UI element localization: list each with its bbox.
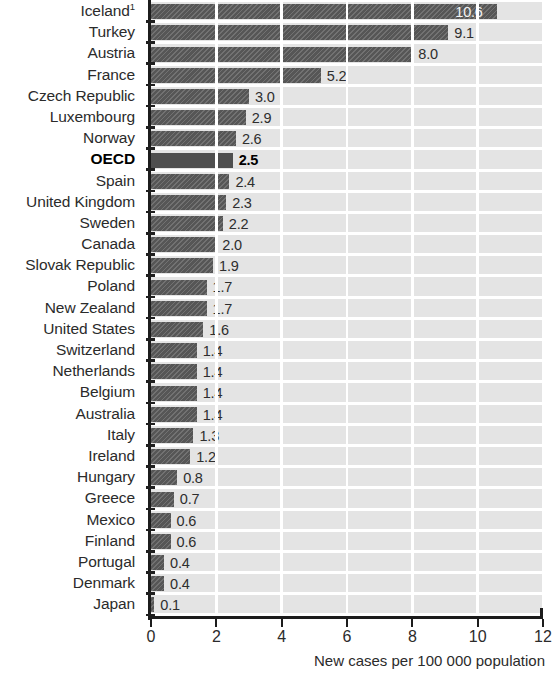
y-axis-tick [146,126,155,129]
category-label: Spain [0,170,143,191]
y-axis-tick [146,62,155,65]
y-axis-tick [146,274,155,277]
x-axis-tick [542,619,544,627]
category-label: Netherlands [0,360,143,381]
bar [151,237,216,252]
category-label: Portugal [0,551,143,572]
bar [151,470,177,485]
bar [151,492,174,507]
bar [151,258,213,273]
bar [151,301,207,316]
vertical-gridline [476,2,479,616]
category-label: Austria [0,42,143,63]
bar-value-label: 1.6 [209,321,229,339]
x-axis-tick-label: 8 [408,628,417,646]
y-axis-tick [146,465,155,468]
category-label: United Kingdom [0,191,143,212]
bar [151,513,171,528]
bar [151,576,164,591]
bar-value-label: 1.9 [219,257,239,275]
y-axis-line [148,0,151,620]
bar-value-label: 0.1 [160,596,180,614]
bar-value-label: 8.0 [418,45,438,63]
bar-value-label: 2.6 [242,130,262,148]
vertical-gridline [542,2,545,616]
y-axis-tick [146,571,155,574]
category-label: Czech Republic [0,85,143,106]
x-axis-tick [150,619,152,627]
footnote-marker: 1 [130,1,135,12]
x-axis-tick [411,619,413,627]
category-label: Poland [0,275,143,296]
x-axis-tick [215,619,217,627]
bar-value-label: 1.4 [203,384,223,402]
bar [151,280,207,295]
y-axis-tick [146,211,155,214]
x-axis-right-cap [540,608,543,619]
plot-area: 10.69.18.05.23.02.92.62.52.42.32.22.01.9… [151,2,543,616]
bar-value-label: 5.2 [327,67,347,85]
bar-value-label: 1.2 [196,448,216,466]
y-axis-tick [146,614,155,617]
x-axis-tick-label: 12 [534,628,552,646]
bar [151,25,448,40]
category-label: Italy [0,424,143,445]
bar-value-label: 1.4 [203,406,223,424]
vertical-gridline [411,2,414,616]
category-label: Turkey [0,21,143,42]
x-axis-tick [281,619,283,627]
bar [151,449,190,464]
bar [151,407,197,422]
vertical-gridline [346,2,349,616]
y-axis-tick [146,84,155,87]
category-label: Greece [0,487,143,508]
bar-value-label: 0.4 [170,575,190,593]
bar-value-label: 0.6 [177,512,197,530]
x-axis-tick-labels: 024681012 [0,628,551,652]
bar-value-label: 0.6 [177,533,197,551]
bar [151,322,203,337]
x-axis-tick-label: 4 [277,628,286,646]
category-label: Canada [0,233,143,254]
y-axis-tick [146,232,155,235]
category-label: New Zealand [0,297,143,318]
category-label: Australia [0,403,143,424]
category-label: Norway [0,127,143,148]
x-axis-tick-label: 6 [343,628,352,646]
x-axis-title: New cases per 100 000 population [314,652,545,669]
category-label: Mexico [0,509,143,530]
bar [151,216,223,231]
bar-value-label: 2.5 [239,151,259,169]
category-label: Belgium [0,381,143,402]
y-axis-tick [146,190,155,193]
y-axis-tick [146,338,155,341]
bar [151,110,246,125]
x-axis-tick [477,619,479,627]
y-axis-tick [146,359,155,362]
y-axis-tick [146,550,155,553]
y-axis-tick [146,168,155,171]
y-axis-tick [146,296,155,299]
y-axis-tick [146,147,155,150]
y-axis-tick [146,529,155,532]
bar-value-label: 0.7 [180,490,200,508]
y-axis-tick [146,253,155,256]
category-label: Denmark [0,572,143,593]
bar [151,174,229,189]
y-axis-tick [146,592,155,595]
bar [151,68,321,83]
bar-value-label: 3.0 [255,88,275,106]
bar-value-label: 9.1 [454,24,474,42]
category-label: United States [0,318,143,339]
category-label: Hungary [0,466,143,487]
y-axis-tick [146,41,155,44]
category-label: Luxembourg [0,106,143,127]
bar [151,131,236,146]
bar [151,4,497,19]
category-label: Slovak Republic [0,254,143,275]
bar [151,386,197,401]
bar [151,428,193,443]
bar [151,555,164,570]
bar [151,153,233,168]
